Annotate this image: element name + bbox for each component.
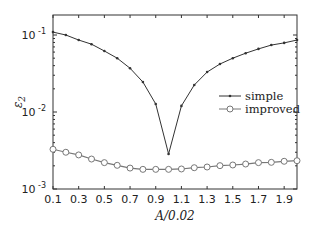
data-point <box>167 153 170 156</box>
x-tick-label: 0.9 <box>147 193 165 206</box>
chart: 0.10.30.50.70.91.11.31.51.71.9 10 -310 -… <box>0 0 313 230</box>
data-point <box>219 63 222 66</box>
data-point <box>191 165 197 171</box>
data-point <box>63 149 69 155</box>
data-point <box>103 50 106 53</box>
y-tick-label: 10 -3 <box>21 181 46 196</box>
data-point <box>268 159 274 165</box>
x-tick-label: 1.5 <box>224 193 242 206</box>
legend-label: simple <box>245 89 284 103</box>
data-point <box>270 44 273 47</box>
data-point <box>153 166 159 172</box>
data-point <box>129 67 132 70</box>
x-tick-label: 1.3 <box>198 193 216 206</box>
data-point <box>281 158 287 164</box>
x-tick-label: 0.5 <box>96 193 114 206</box>
data-point <box>142 81 145 84</box>
data-point <box>257 48 260 51</box>
data-point <box>77 39 80 42</box>
y-tick-labels: 10 -310 -210 -1 <box>21 27 46 196</box>
data-point <box>89 156 95 162</box>
x-tick-label: 1.7 <box>250 193 268 206</box>
data-point <box>166 166 172 172</box>
x-tick-label: 0.1 <box>44 193 62 206</box>
y-tick-label: 10 -1 <box>21 27 46 42</box>
data-point <box>127 165 133 171</box>
y-tick-label: 10 -2 <box>21 104 46 119</box>
data-point <box>283 42 286 45</box>
x-tick-label: 0.7 <box>121 193 139 206</box>
data-point <box>101 160 107 166</box>
data-point <box>294 158 300 164</box>
data-point <box>193 84 196 87</box>
data-point <box>296 39 299 42</box>
x-tick-label: 1.1 <box>173 193 191 206</box>
data-point <box>154 103 157 106</box>
x-tick-label: 1.9 <box>275 193 293 206</box>
data-point <box>180 105 183 108</box>
x-axis-label: A/0.02 <box>154 209 194 223</box>
data-point <box>178 166 184 172</box>
data-point <box>65 34 68 37</box>
data-point <box>230 162 236 168</box>
data-point <box>116 57 119 60</box>
data-point <box>76 152 82 158</box>
data-point <box>90 43 93 46</box>
data-point <box>50 146 56 152</box>
data-point <box>255 160 261 166</box>
x-tick-label: 0.3 <box>70 193 88 206</box>
data-point <box>243 161 249 167</box>
data-point <box>217 163 223 169</box>
y-axis-label: ε2 <box>11 96 27 108</box>
legend-label: improved <box>245 102 301 116</box>
x-tick-labels: 0.10.30.50.70.91.11.31.51.71.9 <box>44 193 293 206</box>
data-point <box>206 71 209 74</box>
data-point <box>204 164 210 170</box>
data-point <box>244 52 247 55</box>
data-point <box>114 162 120 168</box>
data-point <box>140 166 146 172</box>
data-point <box>231 57 234 60</box>
data-point <box>52 31 55 34</box>
